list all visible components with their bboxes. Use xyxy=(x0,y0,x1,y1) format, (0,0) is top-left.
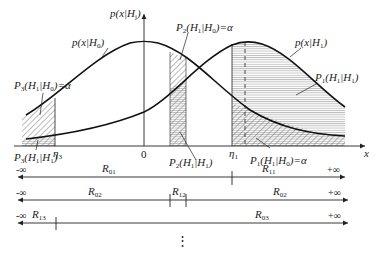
region-r12: R12 xyxy=(172,186,186,199)
h1-curve-label: p(x|H1) xyxy=(295,37,327,50)
region-r02-right: R02 xyxy=(273,186,287,199)
pos-inf-3: +∞ xyxy=(328,211,341,221)
p3-alpha-label: P3(H1|H0)=α xyxy=(14,80,71,93)
p2-alpha-label: P2(H1|H0)=α xyxy=(176,22,233,35)
region-r01: R01 xyxy=(102,163,116,176)
neg-inf-2: -∞ xyxy=(16,188,26,198)
region-r13: R13 xyxy=(32,209,46,222)
neg-inf-1: -∞ xyxy=(16,165,26,175)
p1-alpha-label: P1(H1|H0)=α xyxy=(250,155,307,168)
region-r11: R11 xyxy=(262,163,275,176)
eta1-label: η1 xyxy=(229,148,238,161)
pos-inf-2: +∞ xyxy=(328,188,341,198)
x-axis-label: x xyxy=(364,148,369,159)
region-r02-left: R02 xyxy=(88,186,102,199)
origin-label: 0 xyxy=(141,149,147,160)
pos-inf-1: +∞ xyxy=(327,165,340,175)
neg-inf-3: -∞ xyxy=(16,211,26,221)
p1-hit-label: P1(H1|H1) xyxy=(315,72,358,85)
region-r03: R03 xyxy=(255,209,269,222)
p2-hit-label: P2(H1|H1) xyxy=(169,157,212,170)
continuation-dots: ⋮ xyxy=(176,234,189,247)
y-axis-label: p(x|Hj) xyxy=(110,8,141,21)
h0-curve-label: p(x|H0) xyxy=(72,37,104,50)
